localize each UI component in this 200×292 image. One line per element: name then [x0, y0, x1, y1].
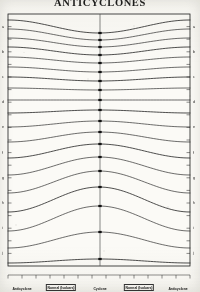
center-crossing-marker: [98, 54, 101, 56]
right-axis-label: i: [193, 226, 194, 230]
isobaric-surface-line: [8, 206, 190, 231]
isobaric-surface-line: [8, 157, 190, 175]
left-axis-label: d: [2, 100, 4, 104]
center-crossing-marker: [98, 156, 101, 158]
center-crossing-marker: [98, 120, 101, 122]
right-axis-label: f: [193, 151, 194, 155]
right-axis-label: h: [193, 201, 195, 205]
center-crossing-marker: [98, 39, 101, 41]
center-crossing-marker: [98, 89, 101, 91]
center-crossing-marker: [98, 143, 101, 145]
left-axis-label: b: [2, 50, 4, 54]
center-crossing-marker: [98, 131, 101, 133]
bottom-region-label-3: Cyclone: [93, 287, 106, 291]
center-crossing-marker: [98, 231, 101, 233]
center-crossing-marker: [98, 186, 101, 188]
left-axis-label: c: [2, 75, 4, 79]
left-axis-label: g: [2, 176, 4, 180]
right-axis-label: e: [193, 125, 195, 129]
left-axis-label: i: [2, 226, 3, 230]
right-axis-label: d: [193, 100, 195, 104]
right-axis-label: g: [193, 176, 195, 180]
left-axis-label: e: [2, 125, 4, 129]
right-axis-label: a: [193, 25, 195, 29]
left-axis-label: f: [2, 151, 3, 155]
right-axis-label: c: [193, 75, 195, 79]
center-crossing-marker: [98, 99, 101, 101]
isobaric-surface-line: [8, 29, 190, 40]
bottom-region-label-5: Anticyclone: [168, 287, 187, 291]
anticyclone-cross-section-chart: [0, 0, 200, 292]
isobaric-surface-line: [8, 171, 190, 193]
isobaric-surface-line: [8, 187, 190, 212]
center-crossing-marker: [98, 258, 101, 260]
bottom-region-label-2: Normal (Isobars): [46, 284, 76, 291]
isobaric-surface-line: [8, 132, 190, 142]
center-crossing-marker: [98, 205, 101, 207]
center-crossing-marker: [98, 46, 101, 48]
right-axis-label: j: [193, 251, 194, 255]
center-crossing-marker: [98, 109, 101, 111]
isobaric-surface-line: [8, 47, 190, 55]
isobaric-surface-line: [8, 232, 190, 248]
center-crossing-marker: [98, 80, 101, 82]
bottom-region-label-4: Normal (Isobars): [124, 284, 154, 291]
center-crossing-marker: [98, 71, 101, 73]
right-axis-label: b: [193, 50, 195, 54]
figure-page: ANTICYCLONES abcdefghijabcdefghijAnticyc…: [0, 0, 200, 292]
left-axis-label: a: [2, 25, 4, 29]
bottom-region-label-1: Anticyclone: [12, 287, 31, 291]
center-crossing-marker: [98, 170, 101, 172]
center-crossing-marker: [98, 32, 101, 34]
left-axis-label: h: [2, 201, 4, 205]
center-crossing-marker: [98, 62, 101, 64]
left-axis-label: j: [2, 251, 3, 255]
